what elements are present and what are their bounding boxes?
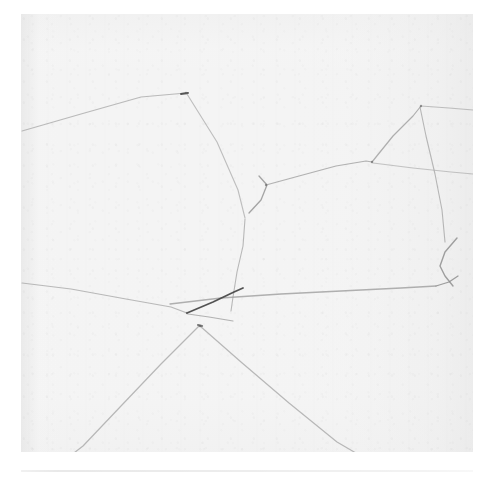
pencil-stroke-center-upper-right-ridge: [266, 161, 372, 185]
pencil-stroke-lower-peak-left-leg: [70, 326, 199, 452]
vertex-upper-left-apex: [185, 92, 187, 94]
vertex-lower-peak-vertex: [199, 325, 201, 327]
pencil-stroke-right-node-up-branch: [372, 106, 421, 162]
pencil-stroke-lower-peak-right-leg: [200, 326, 361, 452]
vertex-right-upper-node: [420, 105, 422, 107]
stroke-group: [22, 93, 473, 452]
pencil-stroke-right-node-to-corner: [421, 106, 473, 110]
pencil-stroke-upper-left-gable: [22, 93, 186, 131]
vertex-right-ridge-node: [371, 161, 373, 163]
vertex-center-tick-node: [265, 184, 267, 186]
pencil-stroke-upper-left-descender: [187, 94, 245, 218]
scanned-paper-image: [21, 14, 473, 452]
pencil-stroke-lower-horizontal-long: [170, 286, 436, 304]
pencil-stroke-center-left-long-diagonal: [22, 283, 187, 313]
screenshot-page: [0, 0, 484, 480]
pencil-line-drawing: [21, 14, 473, 452]
pencil-stroke-right-node-down-right: [420, 107, 445, 242]
pencil-stroke-right-mid-horizontal: [373, 163, 473, 174]
bottom-rule-line: [21, 470, 473, 472]
pencil-stroke-center-tick-short: [249, 176, 267, 213]
vertex-dark-junction: [186, 312, 188, 314]
vertex-dot-group: [185, 92, 422, 327]
pencil-stroke-junction-right-stub: [188, 314, 233, 321]
